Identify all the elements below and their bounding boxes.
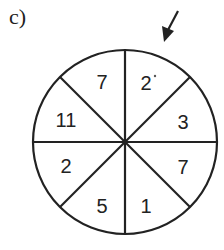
section-right-lower: 7 bbox=[177, 156, 188, 178]
center-pivot bbox=[123, 140, 128, 145]
section-right-upper: 3 bbox=[177, 111, 188, 133]
section-top-left: 7 bbox=[96, 71, 107, 93]
section-top-right: 2 bbox=[140, 72, 151, 94]
section-left-lower: 2 bbox=[60, 155, 71, 177]
section-left-upper: 11 bbox=[56, 109, 77, 131]
pointer-arrow-icon bbox=[162, 11, 178, 42]
section-bottom-right: 1 bbox=[140, 195, 151, 217]
spinner: 2 3 7 1 5 2 11 7 bbox=[0, 0, 224, 250]
section-bottom-left: 5 bbox=[96, 195, 107, 217]
